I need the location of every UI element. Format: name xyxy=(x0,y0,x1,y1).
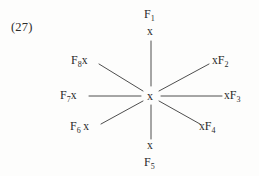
ligand-f8-element: F xyxy=(71,53,78,67)
bond-line-f8 xyxy=(99,64,143,91)
ligand-label-f1: F1 xyxy=(144,8,155,20)
ligand-f5-element: F xyxy=(144,155,151,169)
ligand-f6-element: F xyxy=(70,119,77,133)
ligand-label-f5: F5 xyxy=(144,156,155,168)
ligand-f8-subscript: 8 xyxy=(78,60,82,69)
ligand-label-f4: xF4 xyxy=(199,120,215,133)
bond-atom-label-f6: x xyxy=(83,120,89,132)
bond-line-f6 xyxy=(101,101,143,124)
ligand-label-f3: xF3 xyxy=(224,89,240,102)
bond-atom-label-top: x xyxy=(147,26,153,38)
ligand-f1-subscript: 1 xyxy=(151,14,155,23)
ligand-f6-subscript: 6 xyxy=(77,126,81,135)
ligand-f3-subscript: 3 xyxy=(236,95,240,104)
ligand-label-f8: F8x xyxy=(71,54,87,67)
bond-atom-label-f8: x xyxy=(82,54,88,66)
ligand-f4-subscript: 4 xyxy=(211,126,215,135)
ligand-f1-element: F xyxy=(144,7,151,21)
bond-atom-label-f7: x xyxy=(71,89,77,101)
ligand-f7-element: F xyxy=(60,88,67,102)
chemical-structure-figure: (27) x F1 x xF2 xF3 xF4 x F5 F6x F7x F8x xyxy=(0,0,259,176)
ligand-label-f2: xF2 xyxy=(212,54,228,67)
ligand-f5-subscript: 5 xyxy=(151,162,155,171)
ligand-label-f6: F6x xyxy=(70,120,89,133)
ligand-f7-subscript: 7 xyxy=(67,95,71,104)
ligand-f2-subscript: 2 xyxy=(224,60,228,69)
center-atom-label: x xyxy=(147,89,153,104)
ligand-label-f7: F7x xyxy=(60,89,76,102)
figure-number: (27) xyxy=(11,20,33,35)
bond-line-f2 xyxy=(159,64,209,91)
bond-lines-group xyxy=(0,0,259,176)
bond-atom-label-bottom: x xyxy=(147,140,153,152)
bond-line-f4 xyxy=(159,101,200,124)
